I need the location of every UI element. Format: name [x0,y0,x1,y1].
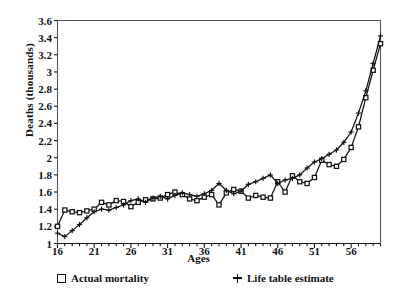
series-actual-mortality [55,42,382,229]
chart-legend: Actual mortality Life table estimate [0,272,397,292]
axis-tick-marks [54,21,381,249]
legend-item-life-table-estimate: Life table estimate [233,272,334,284]
open-square-marker-icon [57,274,66,283]
series-life-table-estimate [55,33,383,239]
legend-label-actual-mortality: Actual mortality [71,272,149,284]
legend-item-actual-mortality: Actual mortality [57,272,149,284]
data-series-group [55,33,383,239]
legend-label-life-table-estimate: Life table estimate [247,272,334,284]
plus-marker-icon [233,274,242,283]
mortality-chart-figure: Deaths (thousands) 11.21.41.61.822.22.42… [0,0,397,300]
x-axis-title: Ages [0,252,397,264]
